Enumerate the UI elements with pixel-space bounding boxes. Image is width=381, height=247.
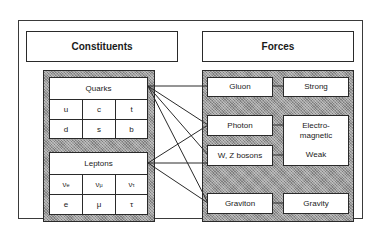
lepton-nu-e: νe (50, 175, 83, 195)
graviton-label: Graviton (225, 199, 255, 208)
lepton-mu: μ (83, 195, 116, 214)
gravity-label: Gravity (303, 199, 328, 208)
photon-label: Photon (227, 121, 252, 130)
lepton-nu-tau: ντ (116, 175, 147, 195)
line-quarks-photon (148, 86, 208, 125)
quark-d: d (50, 120, 83, 138)
leptons-title: Leptons (50, 153, 147, 175)
lepton-e: e (50, 195, 83, 214)
electromagnetic-label: Electro- magnetic (300, 121, 332, 139)
strong-box: Strong (283, 77, 349, 97)
line-leptons-graviton (148, 163, 208, 203)
gluon-label: Gluon (229, 82, 250, 91)
quark-u: u (50, 100, 83, 120)
gluon-box: Gluon (207, 77, 273, 97)
quarks-table: Quarks u c t d s b (49, 77, 148, 139)
strong-label: Strong (304, 82, 328, 91)
quark-b: b (116, 120, 147, 138)
lepton-nu-mu: νμ (83, 175, 116, 195)
electromagnetic-box: Electro- magnetic (283, 115, 349, 146)
gravity-box: Gravity (283, 193, 349, 214)
photon-box: Photon (207, 115, 273, 136)
quarks-title: Quarks (50, 78, 147, 100)
quark-s: s (83, 120, 116, 138)
quark-t: t (116, 100, 147, 120)
wz-bosons-label: W, Z bosons (218, 151, 262, 160)
quark-c: c (83, 100, 116, 120)
weak-label: Weak (306, 150, 326, 159)
graviton-box: Graviton (207, 193, 273, 214)
weak-box: Weak (283, 145, 349, 166)
lepton-tau: τ (116, 195, 147, 214)
leptons-table: Leptons νe νμ ντ e μ τ (49, 152, 148, 215)
wz-bosons-box: W, Z bosons (207, 145, 273, 166)
